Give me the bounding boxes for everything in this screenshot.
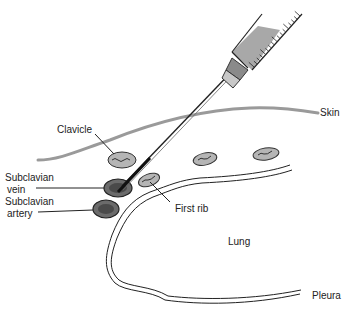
- diagram-canvas: Skin Clavicle Subclavian vein Subclavian…: [0, 0, 349, 310]
- artery-leader: [38, 210, 93, 212]
- subclavian-artery: [93, 200, 119, 218]
- needle: [118, 65, 240, 192]
- label-subclavian-artery-2: artery: [7, 208, 33, 219]
- label-subclavian-vein-2: vein: [7, 184, 25, 195]
- label-lung: Lung: [228, 236, 250, 247]
- label-subclavian-artery-1: Subclavian: [5, 196, 54, 207]
- label-first-rib: First rib: [175, 203, 208, 214]
- syringe-barrel: [232, 11, 305, 70]
- rib-bone-2: [192, 151, 218, 168]
- diagram-svg: [0, 0, 349, 310]
- label-clavicle: Clavicle: [57, 124, 92, 135]
- rib-bone-3: [252, 146, 279, 162]
- clavicle-bone: [108, 152, 136, 168]
- pleura: [106, 165, 301, 303]
- first-rib-bone: [137, 171, 162, 190]
- label-subclavian-vein-1: Subclavian: [5, 172, 54, 183]
- label-skin: Skin: [320, 107, 339, 118]
- label-pleura: Pleura: [312, 290, 341, 301]
